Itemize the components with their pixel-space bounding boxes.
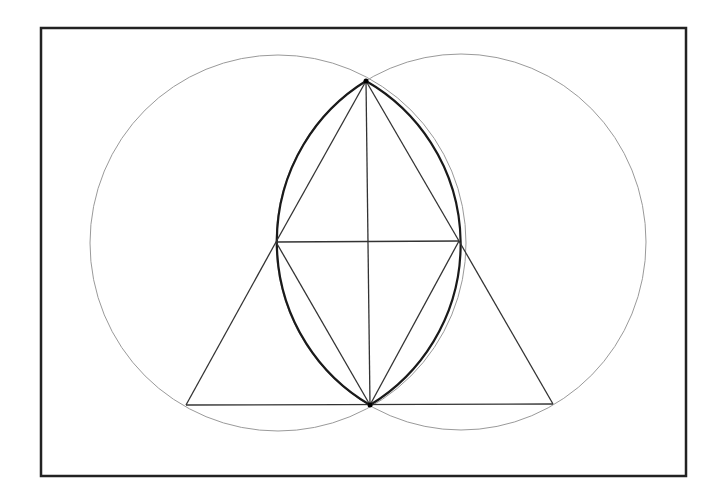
outer-right-edge <box>459 241 553 404</box>
vertex-bottom <box>368 403 373 408</box>
bottom-left-edge <box>276 242 370 405</box>
diagram-canvas <box>0 0 722 497</box>
vertex-top <box>364 79 369 84</box>
horizontal-chord <box>276 241 459 242</box>
top-right-edge <box>366 81 459 241</box>
vertical-axis <box>366 81 370 405</box>
frame-border <box>41 28 686 476</box>
vesica-lens <box>277 81 461 405</box>
segments-group <box>186 81 553 405</box>
outer-left-edge <box>186 242 276 405</box>
bottom-right-edge <box>370 241 459 405</box>
top-left-edge <box>276 81 366 242</box>
